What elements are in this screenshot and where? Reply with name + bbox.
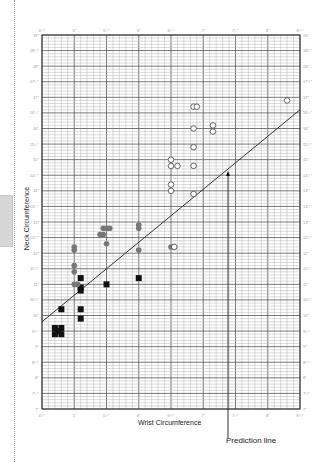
x-tick-label: 4½" xyxy=(39,413,47,418)
y-tick-label: 11" xyxy=(303,282,309,287)
prediction-line-label: Prediction line xyxy=(226,436,276,445)
y-tick-label: 14" xyxy=(33,188,39,193)
y-tick-label: 16½" xyxy=(30,110,40,115)
data-point-open xyxy=(191,191,197,197)
data-point-gray xyxy=(71,247,77,253)
data-point-square xyxy=(78,316,84,322)
y-tick-label: 7" xyxy=(35,407,39,412)
data-point-open xyxy=(284,98,290,104)
y-tick-label: 9" xyxy=(303,344,307,349)
y-tick-label: 8½" xyxy=(303,360,311,365)
y-tick-label: 16" xyxy=(33,126,39,131)
y-tick-label: 8" xyxy=(35,375,39,380)
y-tick-label: 15½" xyxy=(303,142,313,147)
y-tick-label: 18" xyxy=(303,64,309,69)
data-point-gray xyxy=(136,225,142,231)
data-point-square xyxy=(58,306,64,312)
y-tick-label: 13" xyxy=(33,220,39,225)
data-point-square xyxy=(78,306,84,312)
y-tick-label: 12½" xyxy=(303,235,313,240)
data-point-open xyxy=(168,188,174,194)
x-tick-label: 6" xyxy=(137,28,141,33)
y-tick-label: 10" xyxy=(33,313,39,318)
data-point-open xyxy=(191,144,197,150)
x-tick-label: 4½" xyxy=(39,28,47,33)
x-tick-label: 8½" xyxy=(297,413,305,418)
data-point-open xyxy=(175,163,181,169)
data-point-gray xyxy=(104,241,110,247)
y-tick-label: 9½" xyxy=(32,329,40,334)
y-tick-label: 16½" xyxy=(303,110,313,115)
x-tick-label: 5" xyxy=(72,28,76,33)
data-point-gray xyxy=(97,232,103,238)
x-tick-label: 8" xyxy=(266,413,270,418)
x-tick-label: 7½" xyxy=(232,413,240,418)
data-point-gray xyxy=(107,225,113,231)
data-point-open xyxy=(168,157,174,163)
y-tick-label: 12" xyxy=(33,251,39,256)
data-point-square xyxy=(136,275,142,281)
x-tick-label: 5" xyxy=(72,413,76,418)
data-point-open xyxy=(210,123,216,129)
data-point-open xyxy=(194,104,200,110)
y-tick-label: 12½" xyxy=(30,235,40,240)
data-point-square xyxy=(78,288,84,294)
y-tick-label: 9" xyxy=(35,344,39,349)
y-tick-label: 19" xyxy=(33,33,39,38)
y-tick-label: 17½" xyxy=(303,79,313,84)
data-point-gray xyxy=(71,263,77,269)
y-tick-label: 10½" xyxy=(30,297,40,302)
data-point-open xyxy=(171,244,177,250)
y-tick-label: 19" xyxy=(303,33,309,38)
x-tick-label: 6½" xyxy=(168,28,176,33)
data-point-gray xyxy=(136,247,142,253)
x-axis-title: Wrist Circumference xyxy=(138,419,201,426)
y-tick-label: 8½" xyxy=(32,360,40,365)
prediction-arrow-head xyxy=(226,171,230,176)
data-point-square xyxy=(78,275,84,281)
x-tick-label: 8" xyxy=(266,28,270,33)
y-tick-label: 11½" xyxy=(303,266,312,271)
data-point-open xyxy=(191,163,197,169)
data-point-gray xyxy=(71,269,77,275)
x-tick-label: 7½" xyxy=(232,28,240,33)
y-tick-label: 10" xyxy=(303,313,309,318)
y-tick-label: 7" xyxy=(303,407,307,412)
y-tick-label: 15" xyxy=(33,157,39,162)
y-tick-label: 18½" xyxy=(30,48,40,53)
x-tick-label: 5½" xyxy=(103,28,111,33)
y-tick-label: 13½" xyxy=(303,204,313,209)
y-tick-label: 14½" xyxy=(303,173,313,178)
data-point-open xyxy=(168,182,174,188)
data-point-square xyxy=(104,281,110,287)
y-tick-label: 18" xyxy=(33,64,39,69)
y-tick-label: 13" xyxy=(303,220,309,225)
y-tick-label: 17½" xyxy=(30,79,40,84)
data-point-open xyxy=(210,129,216,135)
y-tick-label: 7½" xyxy=(303,391,311,396)
y-tick-label: 14" xyxy=(303,188,309,193)
x-tick-label: 6½" xyxy=(168,413,176,418)
y-tick-label: 10½" xyxy=(303,297,313,302)
scatter-chart: 4½"4½"5"5"5½"5½"6"6"6½"6½"7"7"7½"7½"8"8"… xyxy=(0,0,332,462)
y-tick-label: 17" xyxy=(33,95,39,100)
y-tick-label: 8" xyxy=(303,375,307,380)
data-point-gray xyxy=(75,282,81,288)
x-tick-label: 7" xyxy=(201,28,205,33)
y-tick-label: 9½" xyxy=(303,329,311,334)
y-tick-label: 11" xyxy=(33,282,39,287)
x-tick-label: 7" xyxy=(201,413,205,418)
y-tick-label: 15½" xyxy=(30,142,40,147)
data-point-open xyxy=(168,163,174,169)
data-point-open xyxy=(191,126,197,132)
y-tick-label: 14½" xyxy=(30,173,40,178)
y-tick-label: 17" xyxy=(303,95,309,100)
x-tick-label: 5½" xyxy=(103,413,111,418)
y-tick-label: 13½" xyxy=(30,204,40,209)
data-point-square xyxy=(55,328,61,334)
y-tick-label: 18½" xyxy=(303,48,313,53)
y-tick-label: 7½" xyxy=(32,391,40,396)
y-tick-label: 11½" xyxy=(30,266,39,271)
y-axis-title: Neck Circumference xyxy=(23,179,30,259)
y-tick-label: 16" xyxy=(303,126,309,131)
